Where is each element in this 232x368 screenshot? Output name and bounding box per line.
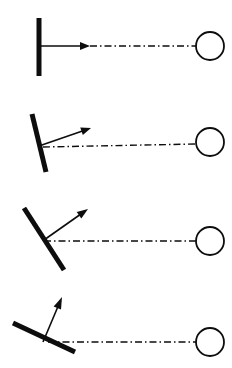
ray-shaft: [43, 305, 58, 342]
ray-shaft: [44, 214, 81, 240]
diagram-canvas: [0, 0, 232, 368]
panel-large-tilt: [13, 297, 224, 356]
reflected-ray-arrow: [39, 127, 91, 146]
reflected-ray-arrow: [44, 209, 88, 240]
panel-zero-tilt: [39, 18, 224, 76]
target-circle: [196, 128, 224, 156]
arrowhead: [80, 42, 90, 50]
mirror-bar: [32, 114, 46, 172]
reflected-ray-arrow: [39, 42, 90, 50]
optical-axis: [43, 144, 196, 147]
panels-group: [13, 18, 224, 356]
panel-small-tilt: [32, 114, 224, 172]
target-circle: [196, 227, 224, 255]
mirror-bar: [13, 323, 75, 352]
panel-medium-tilt: [24, 208, 224, 270]
target-circle: [196, 328, 224, 356]
arrowhead: [54, 297, 62, 310]
arrowhead: [80, 127, 91, 135]
figure-root: [0, 0, 232, 368]
ray-shaft: [39, 130, 84, 146]
mirror-bar: [24, 208, 64, 270]
arrowhead: [77, 209, 88, 219]
target-circle: [196, 32, 224, 60]
reflected-ray-arrow: [43, 297, 62, 342]
